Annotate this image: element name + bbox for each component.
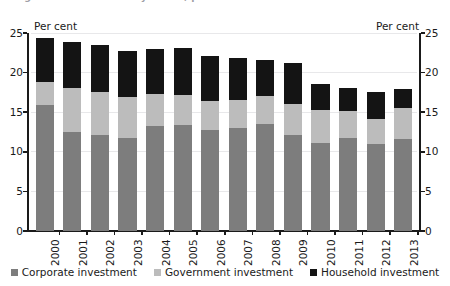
bar-2004[interactable] — [146, 33, 164, 231]
y-axis-tick-left — [23, 72, 27, 74]
x-axis-tick — [169, 231, 171, 235]
bar-2011[interactable] — [339, 33, 357, 231]
legend-label-household: Household investment — [321, 266, 439, 278]
bar-segment-corporate-2006[interactable] — [201, 130, 219, 231]
bar-segment-corporate-2001[interactable] — [63, 132, 81, 231]
bar-segment-government-2010[interactable] — [311, 110, 329, 143]
bar-segment-corporate-2005[interactable] — [174, 125, 192, 231]
bar-2009[interactable] — [284, 33, 302, 231]
y-axis-caption-left: Per cent — [34, 20, 77, 32]
x-axis-tick — [252, 231, 254, 235]
bar-segment-household-2005[interactable] — [174, 48, 192, 95]
bar-segment-government-2007[interactable] — [229, 100, 247, 129]
bar-segment-household-2006[interactable] — [201, 56, 219, 101]
plot-area: 00551010151520202525 — [31, 33, 417, 231]
bar-segment-government-2012[interactable] — [367, 119, 385, 144]
bar-segment-government-2013[interactable] — [394, 108, 412, 139]
bar-2013[interactable] — [394, 33, 412, 231]
bar-segment-corporate-2011[interactable] — [339, 138, 357, 231]
bar-segment-government-2002[interactable] — [91, 92, 109, 135]
gridline — [31, 112, 417, 113]
y-axis-tick-label-left: 5 — [1, 186, 23, 197]
figure-title-text: Figure 1: Investment by sector, per cent… — [14, 0, 279, 2]
x-axis-tick — [224, 231, 226, 235]
x-axis-label-2004: 2004 — [160, 239, 172, 266]
x-axis-tick — [389, 231, 391, 235]
legend-item-household[interactable]: Household investment — [310, 266, 439, 278]
x-axis-label-2003: 2003 — [132, 239, 144, 266]
bar-segment-government-2006[interactable] — [201, 101, 219, 130]
x-axis-label-2006: 2006 — [215, 239, 227, 266]
bar-segment-household-2003[interactable] — [118, 51, 136, 97]
legend-label-government: Government investment — [165, 266, 293, 278]
y-axis-tick-left — [23, 230, 27, 232]
bar-2012[interactable] — [367, 33, 385, 231]
x-axis-tick — [141, 231, 143, 235]
bar-segment-government-2001[interactable] — [63, 88, 81, 132]
bar-2001[interactable] — [63, 33, 81, 231]
bar-2008[interactable] — [256, 33, 274, 231]
legend-item-government[interactable]: Government investment — [154, 266, 293, 278]
bar-2007[interactable] — [229, 33, 247, 231]
y-axis-tick-label-left: 15 — [1, 107, 23, 118]
y-axis-tick-left — [23, 111, 27, 113]
bar-segment-household-2008[interactable] — [256, 60, 274, 96]
bar-segment-corporate-2012[interactable] — [367, 144, 385, 231]
bar-segment-corporate-2010[interactable] — [311, 143, 329, 231]
y-axis-caption-right: Per cent — [376, 20, 419, 32]
y-axis-tick-label-left: 0 — [1, 226, 23, 237]
y-axis-tick-label-right: 15 — [425, 107, 447, 118]
bar-segment-corporate-2002[interactable] — [91, 135, 109, 231]
x-axis-tick — [196, 231, 198, 235]
bar-segment-household-2002[interactable] — [91, 45, 109, 93]
bar-segment-government-2000[interactable] — [36, 82, 54, 105]
bar-segment-household-2009[interactable] — [284, 63, 302, 104]
bar-segment-government-2011[interactable] — [339, 111, 357, 138]
legend-item-corporate[interactable]: Corporate investment — [11, 266, 137, 278]
bar-segment-household-2012[interactable] — [367, 92, 385, 118]
figure-title-cropped: Figure 1: Investment by sector, per cent… — [0, 0, 450, 8]
y-axis-tick-label-right: 20 — [425, 67, 447, 78]
legend-swatch-corporate — [11, 269, 18, 276]
bar-segment-government-2009[interactable] — [284, 104, 302, 135]
bar-segment-household-2013[interactable] — [394, 89, 412, 108]
x-axis-label-2000: 2000 — [49, 239, 61, 266]
x-axis-label-2007: 2007 — [242, 239, 254, 266]
bar-segment-household-2004[interactable] — [146, 49, 164, 94]
bar-segment-corporate-2000[interactable] — [36, 105, 54, 231]
bar-2006[interactable] — [201, 33, 219, 231]
x-axis-label-2011: 2011 — [353, 239, 365, 266]
chart-figure: Figure 1: Investment by sector, per cent… — [0, 0, 450, 286]
x-axis-tick — [334, 231, 336, 235]
y-axis-tick-label-right: 0 — [425, 226, 447, 237]
bar-segment-corporate-2013[interactable] — [394, 139, 412, 231]
x-axis-tick — [307, 231, 309, 235]
y-axis-tick-left — [23, 191, 27, 193]
x-axis-tick — [114, 231, 116, 235]
bar-segment-household-2001[interactable] — [63, 42, 81, 88]
bar-segment-corporate-2004[interactable] — [146, 126, 164, 231]
x-axis-label-2012: 2012 — [380, 239, 392, 266]
x-axis-tick — [417, 231, 419, 235]
bar-segment-household-2007[interactable] — [229, 58, 247, 100]
bar-2010[interactable] — [311, 33, 329, 231]
bar-2002[interactable] — [91, 33, 109, 231]
bar-segment-government-2004[interactable] — [146, 94, 164, 126]
bar-segment-government-2003[interactable] — [118, 97, 136, 138]
bar-segment-government-2008[interactable] — [256, 96, 274, 124]
bar-segment-government-2005[interactable] — [174, 95, 192, 125]
y-axis-tick-label-left: 10 — [1, 146, 23, 157]
x-axis-tick — [86, 231, 88, 235]
bar-segment-household-2000[interactable] — [36, 38, 54, 82]
gridline — [31, 151, 417, 152]
bar-2005[interactable] — [174, 33, 192, 231]
bar-segment-household-2011[interactable] — [339, 88, 357, 111]
bar-segment-corporate-2003[interactable] — [118, 138, 136, 231]
bar-segment-household-2010[interactable] — [311, 84, 329, 110]
bar-2003[interactable] — [118, 33, 136, 231]
bar-segment-corporate-2009[interactable] — [284, 135, 302, 231]
bar-segment-corporate-2007[interactable] — [229, 128, 247, 231]
bar-segment-corporate-2008[interactable] — [256, 124, 274, 231]
bar-2000[interactable] — [36, 33, 54, 231]
y-axis-tick-label-right: 10 — [425, 146, 447, 157]
